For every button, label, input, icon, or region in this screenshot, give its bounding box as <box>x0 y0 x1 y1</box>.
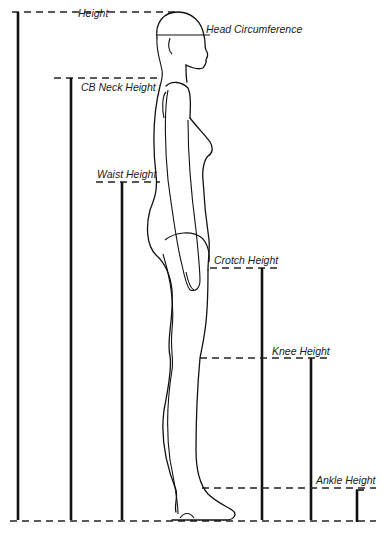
cb-neck-height-measure <box>54 78 162 520</box>
crotch-height-measure <box>210 268 281 520</box>
label-waist-height: Waist Height <box>97 169 156 180</box>
label-ankle-height: Ankle Height <box>316 475 376 486</box>
ankle-height-measure <box>202 488 376 522</box>
waist-height-measure <box>96 182 160 520</box>
label-cb-neck-height: CB Neck Height <box>81 82 156 93</box>
knee-height-measure <box>200 358 332 520</box>
figure-silhouette <box>148 12 235 520</box>
label-head-circumference: Head Circumference <box>206 24 302 35</box>
label-height: Height <box>78 8 108 19</box>
label-knee-height: Knee Height <box>272 346 330 357</box>
body-measurement-diagram <box>0 0 392 534</box>
label-crotch-height: Crotch Height <box>214 255 278 266</box>
